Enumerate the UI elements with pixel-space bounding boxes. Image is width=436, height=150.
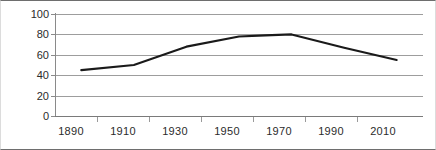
x-tick-mark-6 — [357, 117, 358, 122]
x-tick-mark-5 — [305, 117, 306, 122]
gridline-20 — [55, 96, 423, 97]
x-axis-line — [55, 116, 423, 117]
y-tick-label-80: 80 — [1, 29, 49, 40]
x-tick-label-1950: 1950 — [204, 125, 250, 137]
x-tick-mark-3 — [201, 117, 202, 122]
gridline-80 — [55, 34, 423, 35]
gridline-40 — [55, 75, 423, 76]
plot-area — [55, 14, 423, 116]
x-tick-label-2010: 2010 — [360, 125, 406, 137]
x-tick-mark-2 — [149, 117, 150, 122]
x-tick-mark-1 — [97, 117, 98, 122]
y-tick-label-0: 0 — [1, 111, 49, 122]
y-tick-label-40: 40 — [1, 70, 49, 81]
x-tick-label-1990: 1990 — [308, 125, 354, 137]
x-tick-label-1910: 1910 — [100, 125, 146, 137]
y-tick-label-60: 60 — [1, 50, 49, 61]
y-tick-label-100: 100 — [1, 9, 49, 20]
x-tick-label-1970: 1970 — [256, 125, 302, 137]
chart-figure: Line chart of values by year from 1890 t… — [0, 0, 436, 150]
x-tick-label-1930: 1930 — [152, 125, 198, 137]
y-axis-line — [55, 13, 56, 117]
x-tick-label-1890: 1890 — [48, 125, 94, 137]
gridline-100 — [55, 14, 423, 15]
chart-description: Line chart of values by year from 1890 t… — [0, 0, 1, 1]
y-tick-label-20: 20 — [1, 91, 49, 102]
x-tick-mark-4 — [253, 117, 254, 122]
gridline-60 — [55, 55, 423, 56]
